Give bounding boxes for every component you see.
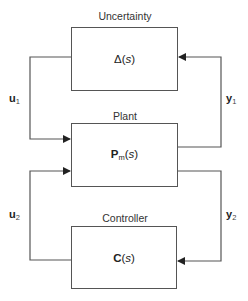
controller-block: C(s) <box>71 226 177 289</box>
robust-control-block-diagram: Uncertainty Δ(s) Plant Pm(s) Controller … <box>0 0 248 301</box>
delta-symbol: Δ <box>114 53 122 65</box>
controller-transfer-function: C(s) <box>72 252 176 264</box>
u1-connector <box>30 57 71 139</box>
signal-label-y1: y1 <box>226 92 236 106</box>
signal-label-u2: u2 <box>9 208 20 222</box>
signal-label-y2: y2 <box>226 208 236 222</box>
signal-label-u1: u1 <box>9 92 20 106</box>
plant-title: Plant <box>55 110 195 122</box>
y1-connector <box>178 57 221 147</box>
controller-title: Controller <box>55 212 195 224</box>
plant-transfer-function: Pm(s) <box>72 148 177 162</box>
uncertainty-block: Δ(s) <box>71 27 178 91</box>
uncertainty-title: Uncertainty <box>55 10 195 22</box>
plant-block: Pm(s) <box>71 123 178 187</box>
uncertainty-transfer-function: Δ(s) <box>72 53 177 65</box>
